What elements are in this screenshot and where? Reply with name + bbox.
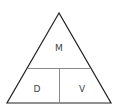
triangle-shape bbox=[0, 0, 118, 112]
label-volume: V bbox=[79, 85, 85, 94]
label-density: D bbox=[34, 85, 41, 94]
formula-triangle: M D V bbox=[0, 0, 118, 112]
label-mass: M bbox=[55, 44, 63, 53]
